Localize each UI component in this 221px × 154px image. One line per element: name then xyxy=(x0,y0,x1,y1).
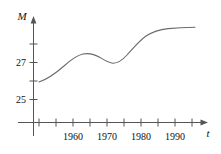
data-curve-series-0 xyxy=(39,27,195,82)
chart-figure: M t 27 25 1960 1970 1980 1990 xyxy=(0,0,221,154)
x-tick-label-1970: 1970 xyxy=(97,131,117,142)
x-tick-label-1990: 1990 xyxy=(165,131,185,142)
y-axis-label: M xyxy=(16,10,27,22)
x-axis-arrow-icon xyxy=(201,120,209,126)
chart-plot-area: M t 27 25 1960 1970 1980 1990 xyxy=(0,0,221,154)
y-tick-label-25: 25 xyxy=(16,94,26,105)
y-tick-label-27: 27 xyxy=(16,57,26,68)
x-axis-label: t xyxy=(206,127,210,139)
x-tick-label-1980: 1980 xyxy=(131,131,151,142)
y-axis-arrow-icon xyxy=(31,16,37,24)
x-tick-label-1960: 1960 xyxy=(63,131,83,142)
